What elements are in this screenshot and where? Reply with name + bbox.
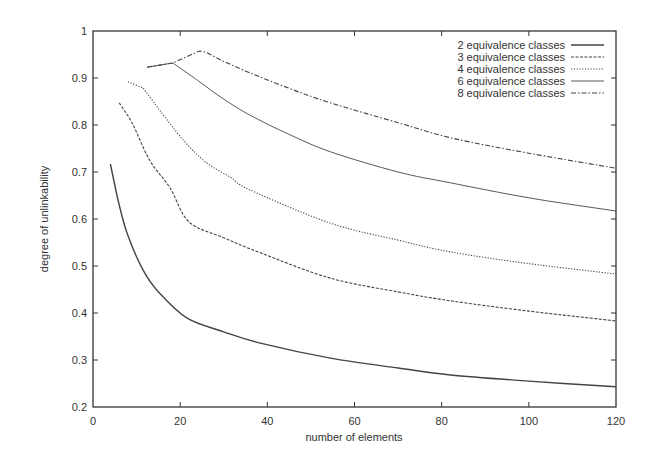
legend-label: 8 equivalence classes (457, 87, 565, 99)
series-layer (110, 51, 616, 387)
series-line-1 (110, 164, 616, 387)
legend-label: 3 equivalence classes (457, 51, 565, 63)
y-tick-label: 0.3 (72, 354, 87, 366)
x-tick-label: 80 (436, 415, 448, 427)
x-tick-label: 0 (90, 415, 96, 427)
y-tick-label: 0.2 (72, 401, 87, 413)
x-tick-label: 60 (348, 415, 360, 427)
legend-label: 2 equivalence classes (457, 39, 565, 51)
y-axis-label: degree of unlinkability (38, 165, 50, 272)
y-tick-label: 0.9 (72, 72, 87, 84)
y-tick-label: 0.8 (72, 119, 87, 131)
legend-label: 6 equivalence classes (457, 75, 565, 87)
legend: 2 equivalence classes3 equivalence class… (457, 39, 604, 99)
series-line-2 (119, 103, 616, 321)
legend-label: 4 equivalence classes (457, 63, 565, 75)
x-tick-label: 20 (174, 415, 186, 427)
x-tick-label: 120 (607, 415, 625, 427)
line-chart: 020406080100120 0.20.30.40.50.60.70.80.9… (0, 0, 656, 467)
x-axis-label: number of elements (305, 431, 403, 443)
y-tick-label: 1 (81, 25, 87, 37)
y-tick-label: 0.6 (72, 213, 87, 225)
series-line-3 (128, 82, 616, 274)
x-tick-label: 100 (520, 415, 538, 427)
y-tick-label: 0.4 (72, 307, 87, 319)
y-tick-label: 0.7 (72, 166, 87, 178)
x-tick-label: 40 (261, 415, 273, 427)
y-tick-label: 0.5 (72, 260, 87, 272)
